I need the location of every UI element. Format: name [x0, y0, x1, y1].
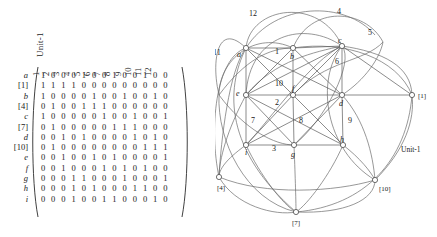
matrix-row-label-10: [10] — [2, 142, 28, 152]
graph-node-label-i: i — [245, 148, 247, 157]
matrix-row-label-i: i — [2, 194, 28, 204]
graph-edge-label-12: 12 — [249, 9, 257, 18]
graph-node-v7[interactable] — [293, 209, 298, 214]
graph-node-d[interactable] — [339, 92, 344, 97]
graph-edge-label-9: 9 — [348, 116, 352, 125]
graph-node-b[interactable] — [290, 45, 295, 50]
graph-node-a[interactable] — [243, 45, 248, 50]
graph-node-label-b: b — [290, 52, 294, 61]
matrix-row-label-1: [1] — [2, 80, 28, 90]
matrix-row-label-c: c — [2, 111, 28, 121]
graph-node-label-f: f — [292, 84, 296, 93]
graph-edge-label-2: 2 — [275, 98, 279, 107]
matrix-row-label-7: [7] — [2, 122, 28, 132]
graph-edge-label-10: 10 — [275, 79, 283, 88]
incidence-matrix: Unit-1 123456789101112 a[1]b[4]c[7]d[10]… — [0, 0, 215, 237]
graph-node-v1[interactable] — [409, 92, 414, 97]
graph-node-label-v1: [1] — [418, 92, 426, 100]
matrix-row-label-d: d — [2, 132, 28, 142]
graph-node-label-v4: [4] — [217, 184, 225, 192]
graph-edge-label-4: 4 — [337, 7, 341, 16]
graph-node-f[interactable] — [290, 92, 295, 97]
graph-edge-label-7: 7 — [251, 116, 255, 125]
graph-node-g[interactable] — [291, 142, 296, 147]
graph-node-label-d: d — [339, 99, 344, 108]
graph-node-i[interactable] — [243, 142, 248, 147]
matrix-row-label-h: h — [2, 183, 28, 193]
graph-edge-label-11: 11 — [215, 48, 221, 57]
matrix-brackets — [30, 63, 190, 223]
matrix-row-label-b: b — [2, 91, 28, 101]
graph-node-label-e: e — [236, 89, 240, 98]
graph-node-v10[interactable] — [372, 177, 377, 182]
graph-straight-edges — [246, 46, 412, 145]
graph-edge-label-5: 5 — [368, 28, 372, 37]
matrix-row-label-a: a — [2, 70, 28, 80]
graph-node-label-g: g — [291, 150, 295, 159]
matrix-row-label-e: e — [2, 152, 28, 162]
matrix-row-label-f: f — [2, 163, 28, 173]
matrix-caption: Unit-1 — [35, 32, 45, 57]
graph-node-label-v10: [10] — [379, 185, 391, 193]
graph-node-label-c: c — [338, 36, 342, 45]
graph-unit-label: Unit-1 — [401, 145, 421, 154]
graph-node-label-v7: [7] — [292, 219, 300, 227]
unit-1-figure: Unit-1 123456789101112 a[1]b[4]c[7]d[10]… — [0, 0, 437, 237]
unit-1-graph: abcefdigh[1][4][7][10] 123456789101112 U… — [215, 0, 437, 237]
graph-node-v4[interactable] — [216, 174, 221, 179]
graph-svg: abcefdigh[1][4][7][10] 123456789101112 U… — [215, 0, 437, 237]
graph-edge-label-6: 6 — [335, 57, 339, 66]
matrix-row-label-g: g — [2, 173, 28, 183]
graph-curved-edges — [215, 11, 413, 213]
graph-node-label-h: h — [340, 135, 344, 144]
graph-edge-label-3: 3 — [272, 144, 276, 153]
graph-edge-label-8: 8 — [299, 116, 303, 125]
graph-node-e[interactable] — [243, 92, 248, 97]
graph-node-label-a: a — [237, 50, 241, 59]
graph-edge-label-1: 1 — [275, 47, 279, 56]
matrix-row-label-4: [4] — [2, 101, 28, 111]
